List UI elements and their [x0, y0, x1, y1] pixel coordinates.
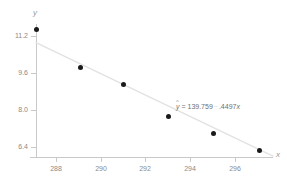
- x-variable-symbol: x: [236, 103, 240, 110]
- regression-line: [0, 0, 287, 184]
- regression-equation-annotation: ^y = 139.759−.4497x: [176, 102, 240, 111]
- y-hat-symbol: ^y: [176, 103, 180, 110]
- intercept-value: 139.759: [188, 103, 213, 110]
- data-point: [34, 27, 39, 32]
- data-point: [166, 114, 171, 119]
- scatter-plot-figure: y x 11.2 9.6 8.0 6.4 288 290 292 294 296…: [0, 0, 287, 184]
- slope-value: .4497: [219, 103, 237, 110]
- hat-accent-icon: ^: [176, 98, 179, 107]
- plot-area: [0, 0, 287, 184]
- data-point: [257, 148, 262, 153]
